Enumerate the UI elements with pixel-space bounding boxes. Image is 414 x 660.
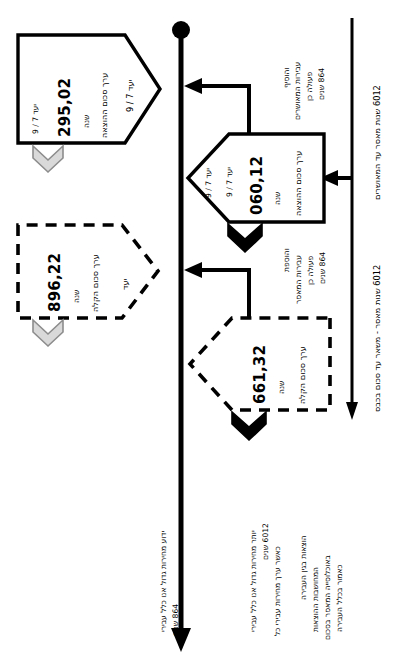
node-1-unit: שנה <box>83 115 92 128</box>
node-4-unit: שנה <box>278 381 287 394</box>
node-4-value: 23,166 <box>252 345 270 404</box>
right-axis-label-top: 2106 שנות מאסר עד המאושרים <box>373 85 383 200</box>
right-axis-rule <box>346 18 358 420</box>
right-axis-arrowhead <box>346 402 358 420</box>
node-3-unit: שנה <box>73 290 82 303</box>
timeline-start-dot <box>172 21 190 39</box>
node-4-caption: ערך סכום הקלה <box>298 346 308 404</box>
node-1-target-word: יעד 7 / 9 <box>126 80 136 112</box>
annotation-upper-line-3: פעולה כן <box>306 72 315 101</box>
node-3-shape[interactable] <box>18 225 158 318</box>
footer-note-1-line-1: ידוע מחירות גדול אנו כלל עבירי <box>160 531 169 632</box>
diagram-canvas: 2106 שנות מאסר עד המאושרים 2106 שנות מאס… <box>0 0 414 660</box>
footer-note-2-line-2: 2106 שנים <box>262 523 271 560</box>
node-2-unit: שנה <box>274 192 283 205</box>
connector-node4-to-timeline <box>184 262 249 318</box>
arrowhead-upper-to-timeline <box>184 78 202 94</box>
annotation-lower-line-4: 468 שנים <box>319 252 328 284</box>
node-1-target: יעד 7 / 9 <box>32 104 41 134</box>
black-chevron-down-node4 <box>232 412 266 440</box>
annotation-upper-line-2: עבירות המאושרים <box>294 62 303 120</box>
main-timeline-axis <box>171 21 191 652</box>
annotation-upper-line-1: והוסיף <box>283 67 292 88</box>
footer-note-3-line-4: כאמור בכלל העבירה <box>336 564 345 632</box>
black-chevron-down-node2 <box>228 224 262 252</box>
annotation-lower-line-3: פעולה כן <box>307 256 316 285</box>
connector-node2-to-timeline <box>184 78 249 134</box>
footer-note-3-line-2: המחושבות ההוצאות <box>312 567 321 632</box>
footer-note-3-line-1: הוצאות בגין העבירה <box>300 535 309 600</box>
node-2-caption: ערך סכום ההוצאה <box>294 151 304 216</box>
footer-note-3-line-3: באוכלוסייה המאסר בסכום <box>324 555 333 640</box>
gray-chevron-down-node3 <box>33 320 63 346</box>
node-1-caption: ערך סכום ההוצאה <box>100 73 110 138</box>
footer-note-1-line-2: 468 שנים <box>172 604 181 636</box>
right-axis-label-bottom: 2106 שנות מאסר - משאר עד סכום בכבס <box>373 265 383 412</box>
annotation-lower-line-2: עבירות המאסר <box>295 255 304 304</box>
footer-note-2-line-1: יותר מחירות גדול אנו כלל עבירי <box>250 530 259 632</box>
node-2-value: 21,060 <box>249 156 267 215</box>
node-2-target-label: יעד 7 / 9 <box>226 167 235 197</box>
annotation-upper-line-4: 468 שנים <box>318 68 327 100</box>
annotation-lower-line-1: והוספת <box>283 248 292 272</box>
node-3-target: יעד <box>121 279 131 290</box>
footer-note-2-line-3: כאשר ערך מחירות עבירי כל <box>274 546 283 636</box>
arrowhead-lower-to-timeline <box>184 262 202 278</box>
node-2-target: יעד 7 / 9 <box>205 168 214 198</box>
gray-chevron-down-node1 <box>33 146 63 172</box>
node-1-value: 20,592 <box>57 78 75 137</box>
node-3-caption: ערך סכום הקלה <box>91 254 101 312</box>
node-3-value: 22,698 <box>47 253 65 312</box>
